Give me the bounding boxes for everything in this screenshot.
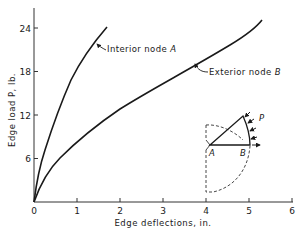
y-tick-labels: 6 12 18 24 bbox=[20, 24, 32, 165]
annotation-interior-node-a: Interior node A bbox=[97, 44, 176, 54]
y-tick-label: 12 bbox=[20, 111, 31, 121]
x-ticks bbox=[77, 198, 292, 202]
axes bbox=[34, 8, 293, 202]
load-deflection-chart: 0 1 2 3 4 5 6 6 12 18 24 Edge deflection… bbox=[0, 0, 299, 230]
x-tick-labels: 0 1 2 3 4 5 6 bbox=[31, 206, 295, 216]
annot-a-text: Interior node bbox=[107, 44, 167, 54]
inset-sector bbox=[210, 116, 250, 145]
x-tick-label: 3 bbox=[160, 206, 166, 216]
annot-b-text: Exterior node bbox=[209, 67, 272, 77]
curve-interior-node-a bbox=[34, 27, 107, 202]
x-tick-label: 1 bbox=[74, 206, 80, 216]
y-axis-label: Edge load P, lb. bbox=[7, 73, 17, 147]
y-ticks bbox=[34, 28, 38, 159]
annot-a-letter: A bbox=[169, 44, 176, 54]
leader-arrow-a bbox=[97, 44, 106, 50]
inset-label-p: P bbox=[259, 113, 265, 123]
annotation-exterior-node-b: Exterior node B bbox=[195, 64, 281, 77]
inset-label-a: A bbox=[208, 148, 215, 158]
x-axis-label: Edge deflections, in. bbox=[114, 218, 211, 228]
x-tick-label: 2 bbox=[117, 206, 123, 216]
inset-dashed-outline bbox=[206, 125, 250, 192]
x-tick-label: 5 bbox=[246, 206, 252, 216]
x-tick-label: 0 bbox=[31, 206, 37, 216]
inset-slab-diagram: A B P bbox=[206, 112, 265, 192]
annot-b-letter: B bbox=[275, 67, 281, 77]
y-tick-label: 6 bbox=[25, 154, 31, 164]
y-tick-label: 18 bbox=[20, 67, 32, 77]
inset-label-b: B bbox=[240, 148, 246, 158]
svg-text:Exterior node B: Exterior node B bbox=[209, 67, 281, 77]
svg-text:Interior node A: Interior node A bbox=[107, 44, 176, 54]
x-tick-label: 4 bbox=[203, 206, 209, 216]
y-tick-label: 24 bbox=[20, 24, 32, 34]
x-tick-label: 6 bbox=[289, 206, 295, 216]
